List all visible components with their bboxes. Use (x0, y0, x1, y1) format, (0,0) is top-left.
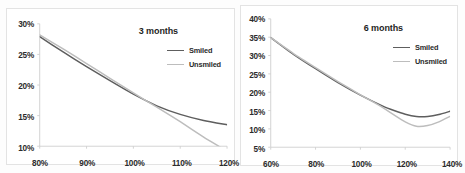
x-tick-label: 140% (442, 160, 462, 169)
plot-area-3-months (7, 9, 234, 164)
chart-title-3-months: 3 months (139, 26, 178, 36)
x-tick-label: 80% (308, 160, 324, 169)
legend-line-swatch-icon (393, 47, 410, 48)
legend-item-unsmiled[interactable]: Unsmiled (393, 57, 447, 66)
legend-line-swatch-icon (167, 50, 184, 51)
two-panel-line-chart-figure: 10%15%20%25%30% 80%90%100%110%120% 3 mon… (0, 0, 465, 173)
legend-label: Unsmiled (189, 60, 221, 69)
y-tick-label: 30% (249, 52, 265, 61)
y-tick-label: 5% (254, 145, 265, 154)
y-tick-label: 15% (18, 113, 34, 122)
y-tick-label: 15% (249, 107, 265, 116)
x-tick-label: 100% (124, 159, 144, 168)
plot-svg-6-months (241, 6, 457, 165)
y-tick-label: 40% (249, 15, 265, 24)
legend-label: Unsmiled (415, 57, 447, 66)
y-tick-label: 25% (18, 51, 34, 60)
legend-item-unsmiled[interactable]: Unsmiled (167, 60, 221, 69)
legend-6-months: SmiledUnsmiled (393, 43, 447, 71)
chart-panel-6-months: 5%10%15%20%25%30%35%40% 60%80%100%120%14… (240, 5, 458, 166)
chart-title-6-months: 6 months (364, 23, 403, 33)
legend-item-smiled[interactable]: Smiled (167, 46, 221, 55)
x-tick-label: 110% (172, 159, 192, 168)
y-tick-label: 10% (249, 126, 265, 135)
x-tick-label: 120% (397, 160, 417, 169)
plot-area-6-months (241, 6, 457, 165)
y-tick-label: 20% (249, 89, 265, 98)
legend-3-months: SmiledUnsmiled (167, 46, 221, 74)
y-tick-label: 35% (249, 33, 265, 42)
x-tick-label: 90% (79, 159, 95, 168)
legend-label: Smiled (189, 46, 212, 55)
legend-item-smiled[interactable]: Smiled (393, 43, 447, 52)
legend-line-swatch-icon (393, 61, 410, 62)
plot-svg-3-months (7, 9, 234, 164)
y-tick-label: 25% (249, 70, 265, 79)
chart-panel-3-months: 10%15%20%25%30% 80%90%100%110%120% 3 mon… (6, 8, 235, 165)
y-tick-label: 20% (18, 82, 34, 91)
legend-label: Smiled (415, 43, 438, 52)
y-tick-label: 10% (18, 144, 34, 153)
x-tick-label: 80% (32, 159, 48, 168)
x-tick-label: 120% (219, 159, 239, 168)
legend-line-swatch-icon (167, 64, 184, 65)
x-tick-label: 100% (351, 160, 371, 169)
y-tick-label: 30% (18, 20, 34, 29)
x-tick-label: 60% (263, 160, 279, 169)
